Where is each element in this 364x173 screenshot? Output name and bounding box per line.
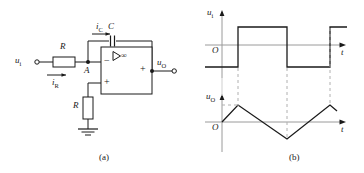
output-node-dot — [150, 69, 154, 73]
node-a-label: A — [84, 66, 90, 75]
current-ir-label: iR — [52, 78, 59, 89]
opamp-output-sign: + — [140, 64, 146, 74]
bottom-plot-origin-label: O — [212, 123, 219, 132]
resistor-ground-body — [83, 97, 93, 119]
output-terminal-node — [172, 69, 176, 73]
opamp-noninverting-input-sign: + — [104, 77, 110, 87]
opamp-inverting-input-sign: − — [104, 56, 110, 66]
capacitor-label: C — [108, 22, 114, 31]
panel-caption-a: (a) — [99, 152, 109, 162]
input-terminal-node — [35, 60, 39, 64]
panel-caption-b: (b) — [289, 152, 300, 162]
bottom-plot-y-axis-label: uO — [206, 92, 215, 103]
top-plot-y-axis-arrow — [220, 10, 225, 16]
resistor-ground-label: R — [73, 101, 79, 110]
current-ic-label: iC — [96, 22, 103, 33]
current-arrow-ir-head — [62, 73, 67, 77]
top-plot-origin-label: O — [212, 46, 219, 55]
figure-root: ui R A iR iC C R ∞ − + + uO ui O t uO O … — [0, 0, 364, 173]
input-voltage-label: ui — [15, 56, 21, 67]
opamp-infinity-gain-symbol: ∞ — [121, 51, 127, 60]
resistor-series-body — [53, 57, 75, 67]
top-plot-y-axis-label: ui — [207, 8, 213, 19]
waveform-diagram — [205, 10, 347, 152]
top-plot-x-axis-label: t — [341, 48, 344, 57]
bottom-plot-x-axis-label: t — [341, 125, 344, 134]
current-arrow-ic-head — [106, 32, 111, 36]
output-voltage-label: uO — [157, 58, 166, 69]
input-square-waveform — [205, 27, 347, 67]
resistor-series-label: R — [60, 42, 66, 51]
